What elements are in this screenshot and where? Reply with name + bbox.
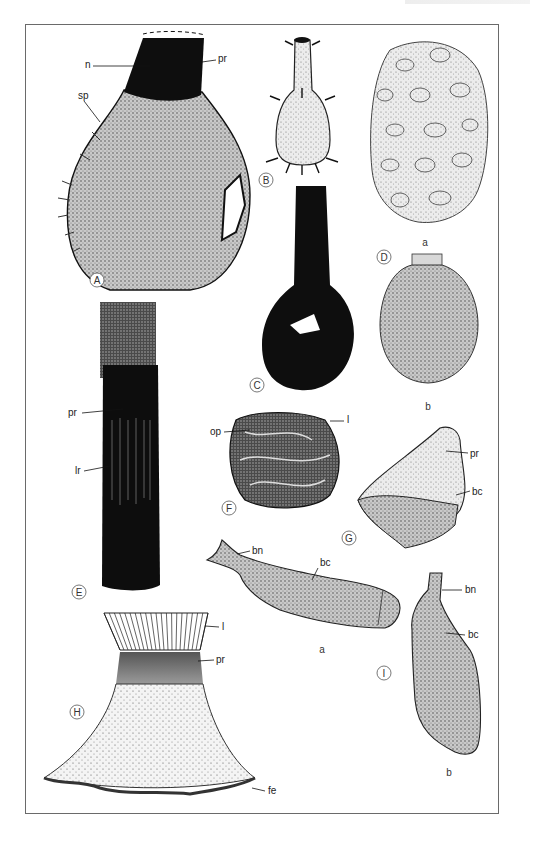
figure-i-b-label-bn: bn — [465, 584, 476, 595]
figure-i-part-a: a — [319, 644, 325, 655]
figure-i-marker: I — [383, 668, 386, 679]
figure-h-leader-l — [205, 626, 219, 627]
figure-e-label-lr: lr — [75, 465, 81, 476]
figure-b-marker: B — [263, 175, 270, 186]
figure-i-b-label-bc: bc — [468, 629, 479, 640]
figure-c: C — [250, 186, 354, 392]
figure-b: B — [259, 37, 338, 187]
figure-i-part-b: b — [446, 767, 452, 778]
figure-d-colony — [371, 42, 488, 223]
figure-d-part-b: b — [425, 401, 431, 412]
figure-d-zooecium — [380, 265, 478, 383]
figure-e-marker: E — [76, 587, 83, 598]
figure-a: n pr sp A — [58, 31, 250, 290]
figure-g-marker: G — [345, 533, 353, 544]
figure-f-label-l: l — [347, 414, 349, 425]
figure-d-marker: D — [380, 252, 387, 263]
figure-a-leader-sp — [84, 101, 100, 122]
figure-g-label-bc: bc — [472, 486, 483, 497]
figure-c-specimen-body — [262, 186, 354, 390]
figure-h-label-pr: pr — [216, 654, 226, 665]
figure-f: op l F — [210, 413, 349, 516]
plate-illustration: n pr sp A B C — [0, 0, 535, 842]
figure-h-prosome — [116, 652, 203, 684]
figure-i: bn bc a I bn bc b — [207, 540, 480, 778]
figure-a-neck — [124, 38, 204, 101]
figure-i-b-specimen — [412, 573, 481, 754]
figure-f-label-op: op — [210, 426, 222, 437]
figure-a-marker: A — [94, 275, 101, 286]
figure-e-label-pr: pr — [68, 407, 78, 418]
figure-c-marker: C — [253, 380, 260, 391]
figure-f-marker: F — [226, 503, 232, 514]
figure-d: a D b — [371, 42, 488, 412]
figure-i-a-leader-bn — [237, 551, 250, 554]
figure-g-base — [358, 496, 458, 548]
figure-h-marker: H — [73, 707, 80, 718]
figure-g: pr bc G — [342, 427, 483, 548]
figure-h-body — [44, 684, 255, 788]
figure-h-leader-fe — [252, 788, 265, 791]
figure-a-aperture-outline — [143, 31, 205, 35]
figure-h: l pr fe H — [44, 613, 277, 796]
figure-b-specimen-body — [276, 40, 330, 165]
figure-i-a-label-bc: bc — [320, 557, 331, 568]
figure-a-label-sp: sp — [78, 90, 89, 101]
figure-h-label-l: l — [222, 621, 224, 632]
figure-a-label-n: n — [85, 59, 91, 70]
figure-h-lip — [104, 613, 208, 650]
figure-b-aperture — [294, 37, 310, 43]
figure-e-lower-part — [102, 365, 160, 590]
figure-i-a-specimen — [207, 540, 400, 628]
figure-a-specimen-body — [67, 90, 250, 290]
figure-i-a-label-bn: bn — [252, 545, 263, 556]
figure-a-leader-pr — [202, 60, 216, 62]
figure-a-label-pr: pr — [218, 53, 228, 64]
figure-e: pr lr E — [68, 302, 160, 599]
figure-g-label-pr: pr — [470, 448, 480, 459]
figure-d-part-a: a — [422, 237, 428, 248]
figure-h-label-fe: fe — [268, 785, 277, 796]
